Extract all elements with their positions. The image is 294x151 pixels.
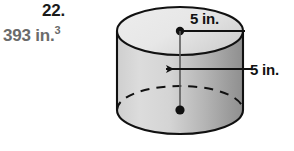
height-label: 5 in.	[250, 62, 279, 77]
radius-label: 5 in.	[190, 11, 219, 26]
cylinder-figure-panel: 22. 393 in.3	[0, 0, 294, 151]
bottom-center-dot	[175, 105, 184, 114]
